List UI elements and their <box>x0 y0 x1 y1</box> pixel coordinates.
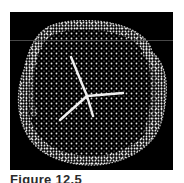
figure-caption: Figure 12.5 <box>10 172 82 183</box>
spore-body <box>10 12 173 170</box>
spore-illustration <box>10 12 173 170</box>
micrograph-panel <box>10 12 173 170</box>
scan-artifact-line <box>10 40 173 41</box>
